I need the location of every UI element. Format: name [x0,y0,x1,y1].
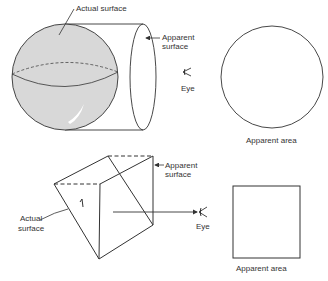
eye-label: Eye [196,222,210,231]
block-icon [54,156,153,259]
apparent-area-label: Apparent area [246,136,297,145]
eye-label: Eye [181,84,195,93]
apparent-area-circle [221,26,323,128]
apparent-surface-label-2: surface [165,170,191,179]
actual-surface-label: Actual surface [76,4,127,13]
eye-icon [183,68,191,76]
actual-surface-label-2: surface [18,224,44,233]
eye-icon [199,207,207,217]
apparent-surface-ellipse [130,24,156,130]
actual-surface-label: Actual [20,214,42,223]
apparent-surface-label: Apparent [165,161,197,170]
apparent-surface-label: Apparent [162,33,194,42]
apparent-area-label: Apparent area [236,264,287,273]
apparent-surface-label-2: surface [162,42,188,51]
sphere-icon [12,24,118,130]
apparent-area-diagram: Actual surface Apparent surface Eye Appa… [0,0,328,281]
apparent-area-square [233,186,300,258]
